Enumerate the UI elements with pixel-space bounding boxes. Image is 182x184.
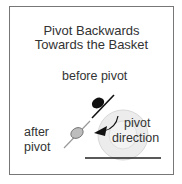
before-pivot-label: before pivot bbox=[62, 69, 127, 83]
after-player-icon bbox=[69, 125, 85, 140]
pivot-direction-label-line-1: pivot bbox=[124, 116, 150, 130]
after-pivot-label-line-1: after bbox=[24, 125, 49, 139]
diagram-graphic bbox=[0, 0, 182, 184]
before-player-icon bbox=[90, 95, 106, 110]
pivot-direction-label-line-2: direction bbox=[112, 131, 159, 145]
after-pivot-label-line-2: pivot bbox=[24, 140, 50, 154]
